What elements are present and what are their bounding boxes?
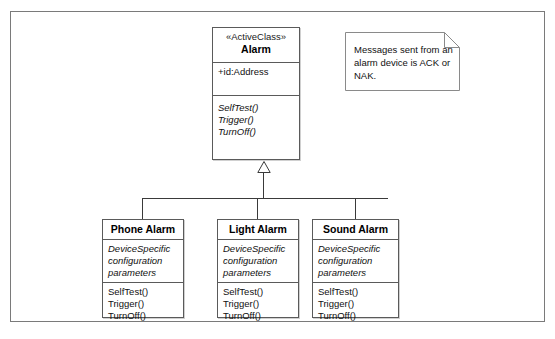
connector-drop-light <box>257 198 258 219</box>
class-header-light-alarm: Light Alarm <box>218 220 298 239</box>
attribute-line: DeviceSpecific <box>108 243 178 255</box>
class-box-light-alarm[interactable]: Light Alarm DeviceSpecific configuration… <box>217 219 299 318</box>
class-attributes-phone-alarm: DeviceSpecific configuration parameters <box>103 239 183 282</box>
operation-line: Trigger() <box>218 114 294 126</box>
class-header-sound-alarm: Sound Alarm <box>313 220 398 239</box>
connector-bus <box>142 198 388 199</box>
class-attributes-light-alarm: DeviceSpecific configuration parameters <box>218 239 298 282</box>
class-attributes-sound-alarm: DeviceSpecific configuration parameters <box>313 239 398 282</box>
attribute-line: parameters <box>318 267 393 279</box>
operation-line: TurnOff() <box>223 310 293 322</box>
class-attributes-alarm: +id:Address <box>213 62 299 95</box>
attribute-line: configuration <box>318 255 393 267</box>
class-operations-alarm: SelfTest() Trigger() TurnOff() <box>213 95 299 161</box>
attribute-line: parameters <box>223 267 293 279</box>
class-name: Light Alarm <box>222 223 294 236</box>
operation-line: SelfTest() <box>218 102 294 114</box>
diagram-frame: «ActiveClass» Alarm +id:Address SelfTest… <box>10 11 545 322</box>
attribute-line: configuration <box>108 255 178 267</box>
class-stereotype: «ActiveClass» <box>217 31 295 43</box>
note-text: Messages sent from an alarm device is AC… <box>354 43 453 82</box>
operation-line: SelfTest() <box>223 286 293 298</box>
attribute-line: parameters <box>108 267 178 279</box>
class-name: Phone Alarm <box>107 223 179 236</box>
operation-line: SelfTest() <box>108 286 178 298</box>
class-header-phone-alarm: Phone Alarm <box>103 220 183 239</box>
class-box-phone-alarm[interactable]: Phone Alarm DeviceSpecific configuration… <box>102 219 184 318</box>
class-operations-sound-alarm: SelfTest() Trigger() TurnOff() <box>313 282 398 319</box>
uml-note[interactable]: Messages sent from an alarm device is AC… <box>345 32 460 91</box>
attribute-line: configuration <box>223 255 293 267</box>
connector-stem <box>263 170 264 199</box>
class-name: Alarm <box>217 43 295 56</box>
operation-line: TurnOff() <box>218 126 294 138</box>
class-operations-light-alarm: SelfTest() Trigger() TurnOff() <box>218 282 298 319</box>
class-box-sound-alarm[interactable]: Sound Alarm DeviceSpecific configuration… <box>312 219 399 318</box>
attribute-line: DeviceSpecific <box>223 243 293 255</box>
class-name: Sound Alarm <box>317 223 394 236</box>
connector-drop-sound <box>355 198 356 219</box>
connector-drop-phone <box>142 198 143 219</box>
class-header-alarm: «ActiveClass» Alarm <box>213 28 299 62</box>
operation-line: TurnOff() <box>108 310 178 322</box>
attribute-line: DeviceSpecific <box>318 243 393 255</box>
operation-line: Trigger() <box>223 298 293 310</box>
operation-line: TurnOff() <box>318 310 393 322</box>
attribute-line: +id:Address <box>218 66 294 78</box>
class-operations-phone-alarm: SelfTest() Trigger() TurnOff() <box>103 282 183 319</box>
operation-line: SelfTest() <box>318 286 393 298</box>
class-box-alarm[interactable]: «ActiveClass» Alarm +id:Address SelfTest… <box>212 27 300 160</box>
operation-line: Trigger() <box>318 298 393 310</box>
operation-line: Trigger() <box>108 298 178 310</box>
